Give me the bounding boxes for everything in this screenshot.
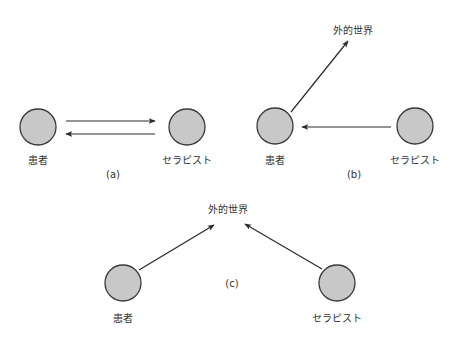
arrow-patient-to-outside-world (139, 225, 214, 270)
arrow-patient-to-outside-world (291, 41, 348, 112)
patient-label: 患者 (113, 313, 133, 324)
patient-node (105, 265, 141, 301)
caption-a: (a) (106, 169, 120, 180)
therapist-label: セラピスト (390, 155, 440, 166)
therapist-node (397, 108, 433, 144)
patient-label: 患者 (28, 155, 48, 166)
outside-world-label: 外的世界 (208, 203, 248, 215)
patient-node (257, 108, 293, 144)
diagram-a: 患者 セラピスト (a) (20, 109, 212, 180)
therapist-label: セラピスト (162, 155, 212, 166)
relationship-diagrams: 患者 セラピスト (a) 外的世界 患者 セラピスト (b) 外的世界 (c) … (0, 0, 461, 339)
outside-world-label: 外的世界 (333, 24, 373, 36)
patient-node (20, 109, 56, 145)
arrow-therapist-to-outside-world (245, 224, 322, 269)
caption-c: (c) (225, 278, 238, 289)
therapist-node (169, 109, 205, 145)
caption-b: (b) (347, 169, 361, 180)
patient-label: 患者 (265, 155, 285, 166)
therapist-node (319, 265, 355, 301)
diagram-c: 外的世界 (c) 患者 セラピスト (105, 203, 362, 324)
diagram-b: 外的世界 患者 セラピスト (b) (257, 24, 440, 180)
therapist-label: セラピスト (312, 313, 362, 324)
